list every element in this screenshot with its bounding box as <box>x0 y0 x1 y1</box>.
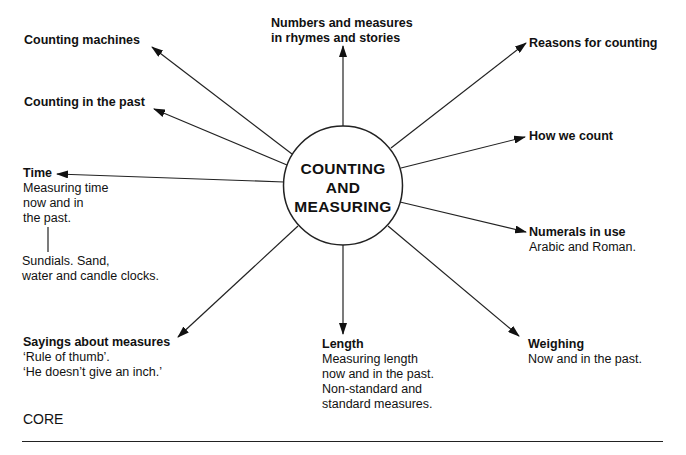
center-line-1: COUNTING <box>284 159 402 178</box>
center-line-2: AND <box>284 178 402 197</box>
arrow-numerals <box>400 202 526 232</box>
node-how-count: How we count <box>529 129 613 144</box>
node-line: Measuring time <box>23 181 108 196</box>
node-title: Numerals in use <box>529 225 636 240</box>
arrow-how-count <box>401 137 525 168</box>
node-title-line-1: Numbers and measures <box>271 16 413 31</box>
node-numerals: Numerals in use Arabic and Roman. <box>529 225 636 255</box>
node-reasons: Reasons for counting <box>529 36 657 51</box>
node-title: How we count <box>529 129 613 144</box>
node-numbers-rhymes: Numbers and measures in rhymes and stori… <box>271 16 413 46</box>
node-title: Reasons for counting <box>529 36 657 51</box>
node-line: water and candle clocks. <box>22 269 159 284</box>
footer-core-label: CORE <box>23 411 63 427</box>
node-time-detail: Sundials. Sand, water and candle clocks. <box>22 254 159 284</box>
node-line: now and in <box>23 196 108 211</box>
node-title: Sayings about measures <box>23 335 170 350</box>
arrow-sayings <box>178 226 298 337</box>
node-line: the past. <box>23 211 108 226</box>
arrow-reasons <box>391 43 526 148</box>
center-line-3: MEASURING <box>284 197 402 216</box>
node-length: Length Measuring length now and in the p… <box>322 337 434 412</box>
node-line: now and in the past. <box>322 367 434 382</box>
node-line: Non-standard and <box>322 382 434 397</box>
node-weighing: Weighing Now and in the past. <box>528 337 642 367</box>
node-title: Counting machines <box>24 33 140 48</box>
node-line: Arabic and Roman. <box>529 240 636 255</box>
node-title: Time <box>23 166 108 181</box>
node-line: ‘Rule of thumb’. <box>23 350 170 365</box>
center-topic: COUNTING AND MEASURING <box>284 159 402 216</box>
node-line: Now and in the past. <box>528 352 642 367</box>
node-title: Counting in the past <box>24 95 145 110</box>
node-counting-machines: Counting machines <box>24 33 140 48</box>
node-line: ‘He doesn’t give an inch.’ <box>23 365 170 380</box>
arrow-weighing <box>388 226 519 336</box>
node-title-line-2: in rhymes and stories <box>271 31 413 46</box>
arrow-counting-past <box>154 109 287 165</box>
node-title: Length <box>322 337 434 352</box>
node-line: Measuring length <box>322 352 434 367</box>
node-line: Sundials. Sand, <box>22 254 159 269</box>
node-title: Weighing <box>528 337 642 352</box>
footer-divider <box>22 441 663 442</box>
node-sayings: Sayings about measures ‘Rule of thumb’. … <box>23 335 170 380</box>
node-counting-past: Counting in the past <box>24 95 145 110</box>
node-line: standard measures. <box>322 397 434 412</box>
node-time: Time Measuring time now and in the past. <box>23 166 108 226</box>
